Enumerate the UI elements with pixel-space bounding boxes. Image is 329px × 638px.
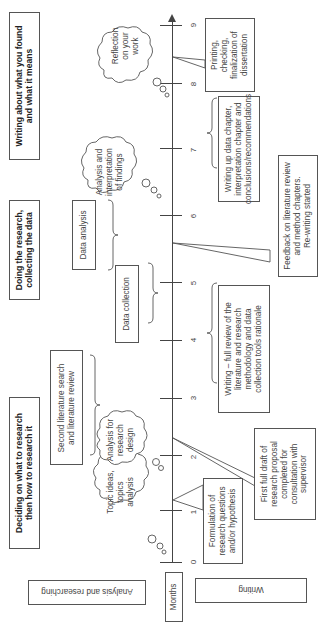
cloud-analysis-findings: Analysis and interpretation of findings — [95, 132, 125, 212]
brace-writing-up — [207, 98, 217, 168]
label-data-analysis: Data analysis — [79, 201, 89, 269]
brace-second-literature — [90, 355, 100, 455]
label-feedback: Feedback on literature review and method… — [283, 156, 313, 276]
label-formulation: Formulation of research questions and/or… — [208, 479, 238, 563]
label-writing-review: Writing – full review of the literature … — [224, 286, 263, 412]
cloud-reflection: Reflection on your work — [111, 16, 141, 76]
label-printing: Printing, checking, finalization of diss… — [210, 19, 249, 91]
label-second-literature: Second literature search and literature … — [57, 352, 77, 465]
label-first-draft: First full draft of research proposal co… — [260, 429, 309, 519]
pointer-formulation — [173, 485, 203, 510]
label-writing-up: Writing up data chapter, interpretation … — [224, 89, 254, 209]
diagram-graphics — [0, 0, 329, 638]
pointer-printing — [173, 57, 205, 68]
label-data-collection: Data collection — [122, 266, 132, 342]
pointer-feedback — [173, 243, 270, 262]
brace-data-collection — [148, 263, 158, 323]
brace-writing-review — [207, 283, 217, 383]
cloud-analysis-design: Analysis for research design — [106, 405, 136, 475]
